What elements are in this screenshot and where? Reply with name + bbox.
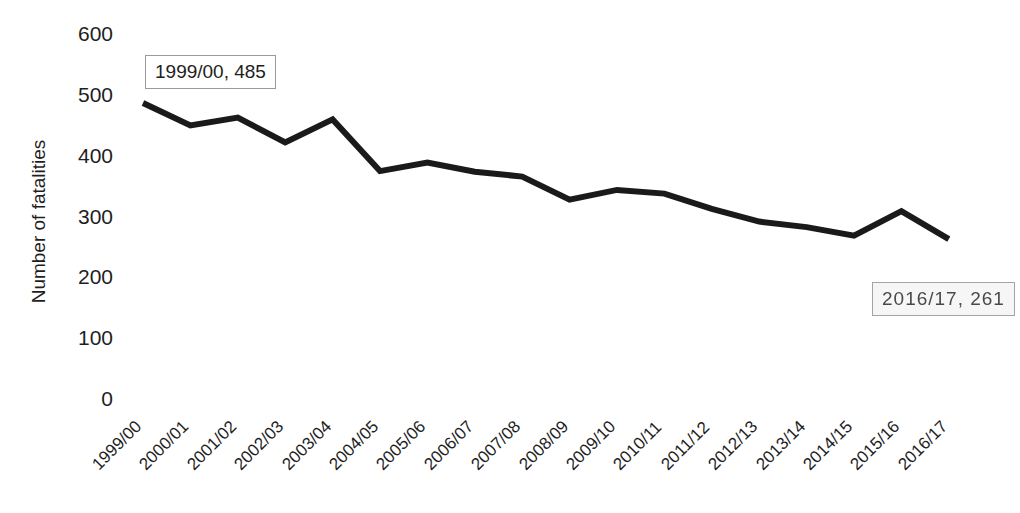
x-axis-tick: 2001/02 xyxy=(184,418,239,473)
x-axis-tick: 2011/12 xyxy=(658,418,713,473)
x-axis-tick: 2004/05 xyxy=(326,418,381,473)
line-chart: 6005004003002001000 Number of fatalities… xyxy=(0,0,1020,513)
x-axis-tick: 2009/10 xyxy=(563,418,618,473)
x-axis-tick: 2013/14 xyxy=(753,418,808,473)
x-axis-tick: 2002/03 xyxy=(231,418,286,473)
x-axis-tick: 2015/16 xyxy=(847,418,902,473)
x-axis-tick: 2010/11 xyxy=(610,418,665,473)
x-axis-tick: 2000/01 xyxy=(136,418,191,473)
x-axis-tick: 2006/07 xyxy=(421,418,476,473)
x-axis-tick: 2008/09 xyxy=(516,418,571,473)
x-axis-tick: 2007/08 xyxy=(468,418,523,473)
data-label: 2016/17, 261 xyxy=(872,282,1015,316)
data-label: 1999/00, 485 xyxy=(145,55,276,89)
x-axis-tick: 2005/06 xyxy=(373,418,428,473)
x-axis-tick: 2016/17 xyxy=(895,418,950,473)
x-axis-tick: 2012/13 xyxy=(705,418,760,473)
x-axis-tick: 1999/00 xyxy=(89,418,144,473)
x-axis-tick: 2003/04 xyxy=(279,418,334,473)
x-axis-tick: 2014/15 xyxy=(800,418,855,473)
